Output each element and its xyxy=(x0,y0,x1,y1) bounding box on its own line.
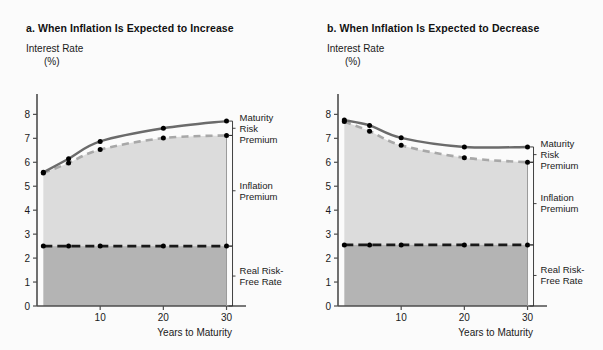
data-point xyxy=(66,156,71,161)
label-real-risk-free-rate: Real Risk-Free Rate xyxy=(240,265,284,287)
data-point xyxy=(224,133,229,138)
x-tick-label: 20 xyxy=(459,312,471,323)
y-tick-label: 4 xyxy=(325,205,331,216)
y-tick-label: 7 xyxy=(24,133,30,144)
bracket-label-line: Real Risk- xyxy=(541,264,585,275)
bracket-label-line: Free Rate xyxy=(541,275,583,286)
data-point xyxy=(525,242,530,247)
data-point xyxy=(161,136,166,141)
y-tick-label: 7 xyxy=(325,133,331,144)
y-tick-label: 2 xyxy=(325,253,331,264)
x-tick-label: 30 xyxy=(522,312,534,323)
y-tick-label: 3 xyxy=(24,229,30,240)
y-tick-label: 1 xyxy=(325,277,331,288)
bracket-label-line: Premium xyxy=(541,203,579,214)
bracket-inflation-premium xyxy=(530,162,537,245)
data-point xyxy=(66,244,71,249)
y-tick-label: 8 xyxy=(325,109,331,120)
data-point xyxy=(161,244,166,249)
label-real-risk-free-rate: Real Risk-Free Rate xyxy=(541,264,585,286)
bracket-label-line: Maturity xyxy=(541,138,575,149)
panel-b-plot: 012345678102030MaturityRiskPremiumInflat… xyxy=(301,0,602,350)
y-tick-label: 0 xyxy=(325,301,331,312)
y-tick-label: 6 xyxy=(325,157,331,168)
bracket-label-line: Premium xyxy=(240,134,278,145)
label-inflation-premium: InflationPremium xyxy=(541,192,579,214)
y-tick-label: 2 xyxy=(24,253,30,264)
label-maturity-risk-premium: MaturityRiskPremium xyxy=(541,138,579,171)
bracket-maturity-risk-premium xyxy=(530,147,537,162)
data-point xyxy=(41,244,46,249)
data-point xyxy=(399,242,404,247)
data-point xyxy=(399,143,404,148)
bracket-maturity-risk-premium xyxy=(229,121,236,135)
data-point xyxy=(462,155,467,160)
data-point xyxy=(161,126,166,131)
data-point xyxy=(399,135,404,140)
bracket-label-line: Maturity xyxy=(240,112,274,123)
data-point xyxy=(525,160,530,165)
data-point xyxy=(367,242,372,247)
label-inflation-premium: InflationPremium xyxy=(240,180,278,202)
bracket-label-line: Premium xyxy=(240,191,278,202)
bracket-label-line: Free Rate xyxy=(240,276,282,287)
y-tick-label: 5 xyxy=(24,181,30,192)
data-point xyxy=(342,242,347,247)
panel-b-x-axis-title: Years to Maturity xyxy=(458,327,533,338)
x-tick-label: 10 xyxy=(396,312,408,323)
data-point xyxy=(98,244,103,249)
data-point xyxy=(98,139,103,144)
data-point xyxy=(224,244,229,249)
x-tick-label: 10 xyxy=(95,312,107,323)
data-point xyxy=(462,144,467,149)
y-tick-label: 3 xyxy=(325,229,331,240)
bracket-inflation-premium xyxy=(229,135,236,246)
data-point xyxy=(41,171,46,176)
chart-panel-a: a. When Inflation Is Expected to Increas… xyxy=(0,0,301,350)
data-point xyxy=(367,123,372,128)
label-maturity-risk-premium: MaturityRiskPremium xyxy=(240,112,278,145)
chart-panel-b: b. When Inflation Is Expected to Decreas… xyxy=(301,0,602,350)
figure-root: a. When Inflation Is Expected to Increas… xyxy=(0,0,603,350)
x-tick-label: 20 xyxy=(158,312,170,323)
bracket-label-line: Real Risk- xyxy=(240,265,284,276)
y-tick-label: 0 xyxy=(24,301,30,312)
bracket-label-line: Inflation xyxy=(240,180,273,191)
data-point xyxy=(462,242,467,247)
bracket-label-line: Risk xyxy=(541,149,560,160)
y-tick-label: 4 xyxy=(24,205,30,216)
data-point xyxy=(98,147,103,152)
panel-a-plot: 012345678102030MaturityRiskPremiumInflat… xyxy=(0,0,301,350)
bracket-label-line: Premium xyxy=(541,160,579,171)
data-point xyxy=(66,160,71,165)
data-point xyxy=(367,129,372,134)
panel-a-x-axis-title: Years to Maturity xyxy=(157,327,232,338)
y-tick-label: 8 xyxy=(24,109,30,120)
y-tick-label: 5 xyxy=(325,181,331,192)
data-point xyxy=(525,144,530,149)
data-point xyxy=(342,119,347,124)
y-tick-label: 1 xyxy=(24,277,30,288)
data-point xyxy=(224,119,229,124)
bracket-label-line: Risk xyxy=(240,123,259,134)
bracket-label-line: Inflation xyxy=(541,192,574,203)
bracket-real-risk-free-rate xyxy=(229,246,236,306)
bracket-real-risk-free-rate xyxy=(530,245,537,306)
y-tick-label: 6 xyxy=(24,157,30,168)
x-tick-label: 30 xyxy=(221,312,233,323)
